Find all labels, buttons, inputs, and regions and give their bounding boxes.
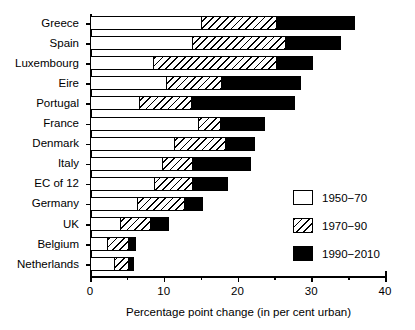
stacked-bar [90,96,295,110]
bar-segment [184,197,204,211]
bar-segment [90,76,167,90]
bar-segment [174,137,226,151]
bar-segment [225,137,255,151]
x-axis-tick-label: 40 [365,285,405,297]
bar-segment [221,76,301,90]
x-axis-tick [311,276,313,282]
category-label: Germany [0,197,79,209]
bar-segment [191,96,295,110]
bar-segment [128,257,134,271]
bar-segment [220,117,265,131]
bar-segment [90,117,199,131]
category-label: France [0,117,79,129]
bar-segment [90,36,193,50]
stacked-bar [90,197,203,211]
legend-swatch [293,246,313,261]
y-axis-tick [86,124,90,126]
bar-segment [120,217,152,231]
bar-segment [107,237,130,251]
bar-segment [90,16,202,30]
stacked-bar [90,217,169,231]
y-axis-tick [86,184,90,186]
legend-label: 1970−90 [322,220,367,232]
category-label: Spain [0,37,79,49]
bar-segment [153,56,278,70]
bar-segment [90,96,140,110]
category-label: Italy [0,157,79,169]
stacked-bar [90,76,301,90]
y-axis-category-labels: GreeceSpainLuxembourgEirePortugalFranceD… [0,14,84,276]
bar-segment [285,36,341,50]
legend-label: 1990−2010 [322,248,380,260]
x-axis-tick-label: 20 [218,285,258,297]
y-axis-tick [86,224,90,226]
x-axis-tick-label: 0 [70,285,110,297]
x-axis-endcap [90,271,92,277]
bar-segment [90,257,115,271]
category-label: UK [0,218,79,230]
bar-segment [137,197,185,211]
bar-segment [201,16,277,30]
stacked-bar-chart: GreeceSpainLuxembourgEirePortugalFranceD… [0,0,415,330]
x-axis-tick-label: 30 [291,285,331,297]
category-label: Portugal [0,97,79,109]
legend-item: 1970−90 [293,218,367,233]
bar-segment [90,197,138,211]
bar-segment [90,237,108,251]
bar-segment [90,177,156,191]
category-label: Greece [0,17,79,29]
bar-segment [192,157,250,171]
y-axis-tick [86,164,90,166]
category-label: Eire [0,77,79,89]
stacked-bar [90,36,341,50]
category-label: Denmark [0,137,79,149]
y-axis-tick [86,43,90,45]
x-axis-minor-tick [274,276,276,280]
stacked-bar [90,237,136,251]
category-label: EC of 12 [0,177,79,189]
legend-item: 1990−2010 [293,246,380,261]
x-axis-endcap [385,271,387,277]
x-axis-tick [238,276,240,282]
x-axis-minor-tick [348,276,350,280]
bar-segment [90,157,163,171]
stacked-bar [90,117,265,131]
bar-segment [166,76,223,90]
bar-segment [154,177,193,191]
legend-swatch [293,218,313,233]
bar-segment [114,257,129,271]
y-axis-tick [86,204,90,206]
bar-segment [150,217,168,231]
bar-segment [276,16,356,30]
y-axis-tick [86,103,90,105]
plot-area [90,14,385,276]
bar-segment [128,237,135,251]
bar-segment [198,117,221,131]
stacked-bar [90,16,355,30]
bar-segment [162,157,194,171]
y-axis-tick [86,144,90,146]
x-axis-title: Percentage point change (in per cent urb… [90,306,387,318]
bar-segment [90,217,121,231]
stacked-bar [90,177,228,191]
stacked-bar [90,157,251,171]
legend-label: 1950−70 [322,192,367,204]
x-axis-tick [164,276,166,282]
stacked-bar [90,56,313,70]
bar-segment [90,56,154,70]
bar-segment [192,177,228,191]
bar-segment [276,56,313,70]
bar-segment [90,137,176,151]
category-label: Netherlands [0,258,79,270]
y-axis-tick [86,264,90,266]
x-axis-minor-tick [201,276,203,280]
stacked-bar [90,137,255,151]
legend-item: 1950−70 [293,190,367,205]
y-axis-tick [86,244,90,246]
y-axis-tick [86,83,90,85]
bar-segment [139,96,192,110]
x-axis-tick-label: 10 [144,285,184,297]
category-label: Luxembourg [0,57,79,69]
x-axis-minor-tick [127,276,129,280]
legend-swatch [293,190,313,205]
